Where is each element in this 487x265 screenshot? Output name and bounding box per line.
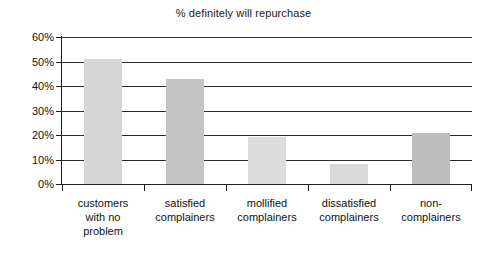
y-axis-tick-label: 60% <box>8 32 54 43</box>
y-axis-tick-mark <box>56 37 62 38</box>
x-axis-category-label: mollified complainers <box>226 196 308 238</box>
bar <box>330 164 368 184</box>
x-axis-category-label: dissatisfied complainers <box>308 196 390 238</box>
bar-slot <box>390 37 472 184</box>
y-axis-tick-mark <box>56 86 62 87</box>
y-axis-labels: 0%10%20%30%40%50%60% <box>8 0 54 265</box>
bar-slot <box>62 37 144 184</box>
x-axis-category-label: customers with no problem <box>62 196 144 238</box>
plot-area <box>62 37 472 184</box>
bar-slot <box>308 37 390 184</box>
bar <box>84 59 122 184</box>
y-axis-tick-mark <box>56 184 62 185</box>
x-axis-tick-mark <box>144 184 145 191</box>
x-axis-category-label: satisfied complainers <box>144 196 226 238</box>
y-axis-tick-label: 20% <box>8 130 54 141</box>
y-axis-tick-mark <box>56 160 62 161</box>
bar-slot <box>226 37 308 184</box>
y-axis-tick-mark <box>56 135 62 136</box>
x-axis-tick-mark <box>226 184 227 191</box>
bar-slot <box>144 37 226 184</box>
chart-container: % definitely will repurchase 0%10%20%30%… <box>0 0 487 265</box>
bar <box>412 133 450 184</box>
y-axis-tick-mark <box>56 111 62 112</box>
x-axis-tick-marks <box>62 184 472 192</box>
x-axis-category-labels: customers with no problemsatisfied compl… <box>62 196 472 238</box>
y-axis-tick-label: 30% <box>8 106 54 117</box>
y-axis-tick-label: 0% <box>8 179 54 190</box>
y-axis-tick-label: 50% <box>8 57 54 68</box>
y-axis-tick-label: 40% <box>8 81 54 92</box>
y-axis-tick-label: 10% <box>8 155 54 166</box>
bar <box>166 79 204 184</box>
chart-title: % definitely will repurchase <box>0 6 487 20</box>
y-axis-tick-mark <box>56 62 62 63</box>
x-axis-tick-mark <box>308 184 309 191</box>
bar <box>248 137 286 184</box>
x-axis-tick-mark <box>471 184 472 191</box>
x-axis-tick-mark <box>390 184 391 191</box>
x-axis-tick-mark <box>62 184 63 191</box>
x-axis-category-label: non- complainers <box>390 196 472 238</box>
